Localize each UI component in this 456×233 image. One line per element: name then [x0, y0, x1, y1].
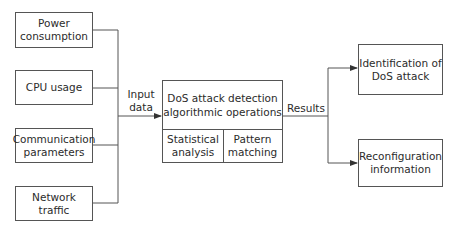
input-data-label: Input data	[121, 88, 161, 114]
output-box-identification: Identification of DoS attack	[358, 44, 443, 95]
dos-detection-title: DoS attack detection algorithmic operati…	[163, 81, 282, 130]
input-label: CPU usage	[26, 81, 82, 94]
input-label: Network	[32, 191, 76, 204]
sub-right-line2: matching	[228, 146, 277, 159]
output-label: Reconfiguration	[359, 150, 442, 163]
input-label: parameters	[13, 146, 96, 159]
input-data-line2: data	[121, 101, 161, 114]
dos-detection-box: DoS attack detection algorithmic operati…	[162, 80, 283, 163]
statistical-analysis-cell: Statistical analysis	[163, 129, 224, 162]
input-label: Communication	[13, 133, 96, 146]
main-title-line1: DoS attack detection	[163, 91, 282, 105]
input-data-line1: Input	[121, 88, 161, 101]
results-label: Results	[284, 102, 328, 115]
input-box-power-consumption: Power consumption	[15, 12, 93, 48]
input-label: consumption	[20, 30, 88, 43]
output-label: Identification of	[359, 57, 441, 70]
sub-right-line1: Pattern	[228, 133, 277, 146]
output-box-reconfiguration: Reconfiguration information	[358, 139, 443, 187]
input-label: traffic	[32, 204, 76, 217]
input-box-communication-parameters: Communication parameters	[15, 128, 93, 163]
main-title-line2: algorithmic operations	[163, 105, 282, 119]
sub-left-line1: Statistical	[167, 133, 219, 146]
output-label: DoS attack	[359, 70, 441, 83]
sub-left-line2: analysis	[167, 146, 219, 159]
input-label: Power	[20, 17, 88, 30]
output-label: information	[359, 163, 442, 176]
pattern-matching-cell: Pattern matching	[223, 129, 282, 162]
input-box-cpu-usage: CPU usage	[15, 70, 93, 105]
input-box-network-traffic: Network traffic	[15, 186, 93, 221]
